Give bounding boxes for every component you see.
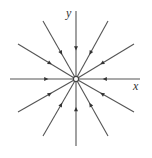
trajectory-lower-left-steep	[43, 81, 75, 136]
arrowhead-icon	[103, 77, 107, 81]
origin-node	[73, 76, 78, 81]
trajectory-lower-right-steep	[77, 81, 108, 136]
phase-portrait-diagram: y x	[0, 0, 152, 158]
x-axis-label: x	[132, 79, 139, 93]
arrowhead-icon	[44, 77, 48, 81]
y-axis-label: y	[65, 6, 72, 20]
arrowhead-icon	[74, 46, 78, 50]
arrowhead-icon	[74, 107, 78, 111]
trajectory-lower-left-shallow	[18, 80, 74, 112]
trajectory-lower-right-shallow	[78, 80, 134, 112]
